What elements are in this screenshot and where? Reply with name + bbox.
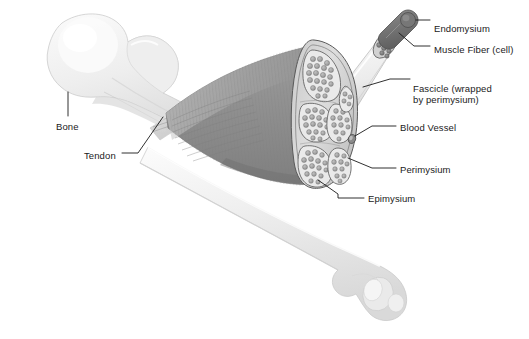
label-blood-vessel: Blood Vessel	[400, 122, 456, 134]
label-bone: Bone	[56, 121, 79, 133]
leader-blood-vessel	[355, 126, 396, 136]
label-muscle-fiber: Muscle Fiber (cell)	[434, 44, 514, 56]
label-endomysium: Endomysium	[434, 23, 490, 35]
label-tendon: Tendon	[84, 150, 116, 162]
leader-perimysium	[348, 158, 396, 168]
label-epimysium: Epimysium	[368, 193, 415, 205]
fascicle-lobe	[328, 148, 351, 184]
muscle-fiber-probe	[378, 10, 418, 49]
label-fascicle-line1: Fascicle (wrapped	[413, 83, 492, 95]
muscle-cross-section	[291, 40, 357, 188]
label-perimysium: Perimysium	[400, 164, 451, 176]
label-fascicle-line2: by perimysium)	[413, 94, 479, 106]
